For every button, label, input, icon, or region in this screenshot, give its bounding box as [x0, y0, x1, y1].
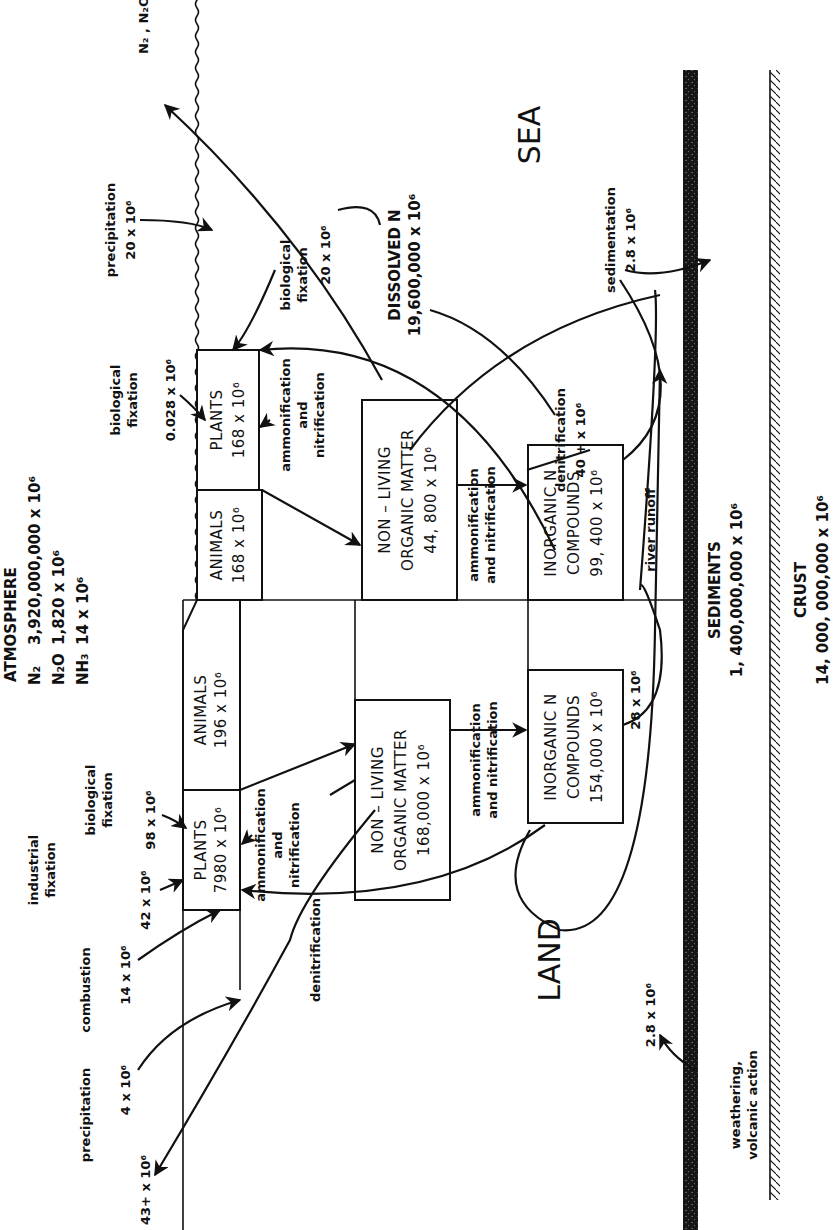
- sea-bio2-value: 0.028 x 10⁶: [163, 359, 178, 442]
- river-value: 28 x 10⁶: [628, 670, 643, 730]
- n2-n2o-label: N₂ , N₂O: [136, 0, 151, 54]
- svg-text:ORGANIC MATTER: ORGANIC MATTER: [399, 429, 417, 571]
- combustion-value: 14 x 10⁶: [118, 945, 133, 1005]
- svg-text:154,000 x 10⁶: 154,000 x 10⁶: [588, 691, 606, 803]
- svg-text:ANIMALS: ANIMALS: [208, 510, 226, 581]
- atm-nh3-label: NH₃: [74, 653, 92, 685]
- land-animals-box: ANIMALS 196 x 10⁶: [183, 600, 240, 790]
- land-amm1-l2: and: [270, 831, 285, 858]
- sed-value: 2.8 x 10⁶: [623, 208, 638, 273]
- land-amm1-l1: ammonification: [253, 788, 268, 901]
- weathering-value: 2.8 x 10⁶: [643, 983, 658, 1048]
- sea-animals-box: ANIMALS 168 x 10⁶: [197, 490, 262, 600]
- atm-nh3-value: 14 x 10⁶: [74, 577, 92, 645]
- svg-text:196 x 10⁶: 196 x 10⁶: [212, 672, 230, 749]
- land-precip-arrow: [138, 1000, 240, 1070]
- sea-bio2-label-1: biological: [108, 365, 123, 436]
- svg-text:7980 x 10⁶: 7980 x 10⁶: [212, 807, 230, 894]
- land-inorganic-box: INORGANIC N COMPOUNDS 154,000 x 10⁶: [528, 670, 623, 823]
- nitrogen-cycle-diagram: ATMOSPHERE N₂ 3,920,000,000 x 10⁶ N₂O 1,…: [0, 0, 836, 1230]
- sea-bio-value: 20 x 10⁶: [318, 225, 333, 285]
- sea-bio2-label-2: fixation: [125, 372, 140, 428]
- sea-amm1-l3: nitrification: [312, 372, 327, 458]
- land-bio-label-1: biological: [83, 765, 98, 836]
- land-bio-label-2: fixation: [100, 772, 115, 828]
- industrial-value: 42 x 10⁶: [138, 870, 153, 930]
- land-animals-to-nonliving: [240, 744, 355, 790]
- sea-amm1-l1: ammonification: [278, 358, 293, 471]
- sea-bio-tick: [338, 207, 380, 225]
- sea-animals-to-nonliving: [262, 490, 360, 545]
- sea-bio-label-2: fixation: [295, 247, 310, 303]
- sediment-band: [683, 70, 698, 1230]
- atm-n2o-label: N₂O: [50, 653, 68, 685]
- land-bio-value: 98 x 10⁶: [143, 790, 158, 850]
- svg-text:44, 800 x 10⁶: 44, 800 x 10⁶: [422, 446, 440, 553]
- weathering-l2: volcanic action: [745, 1050, 760, 1160]
- dissolved-to-atm-arrow: [165, 105, 382, 380]
- sed-label: sedimentation: [603, 187, 618, 293]
- land-amm2-l1: ammonification: [468, 703, 483, 816]
- sea-precip-value: 20 x 10⁶: [123, 200, 138, 260]
- sea-precip-arrow: [140, 220, 212, 230]
- svg-text:ORGANIC MATTER: ORGANIC MATTER: [392, 729, 410, 871]
- land-plants-box: PLANTS 7980 x 10⁶: [183, 790, 240, 910]
- sediments-value: 1, 400,000,000 x 10⁶: [728, 503, 746, 677]
- atm-n2-value: 3,920,000,000 x 10⁶: [26, 476, 44, 645]
- land-nonliving-box: NON – LIVING ORGANIC MATTER 168,000 x 10…: [355, 700, 450, 900]
- svg-text:99, 400 x 10⁶: 99, 400 x 10⁶: [588, 469, 606, 576]
- dissolved-n-label: DISSOLVED N 19,600,000 x 10⁶: [386, 194, 424, 336]
- crust-title: CRUST: [792, 561, 810, 618]
- sea-plants-box: PLANTS 168 x 10⁶: [197, 350, 259, 490]
- sea-bio-label-1: biological: [278, 240, 293, 311]
- land-denit-value: 43+ x 10⁶: [138, 1155, 153, 1226]
- sediments-title: SEDIMENTS: [706, 541, 724, 639]
- atm-n2o-value: 1,820 x 10⁶: [50, 550, 68, 645]
- river-runoff-label: river runoff: [643, 488, 658, 572]
- svg-text:168 x 10⁶: 168 x 10⁶: [230, 382, 248, 459]
- crust-value: 14, 000, 000,000 x 10⁶: [814, 495, 832, 685]
- svg-text:168 x 10⁶: 168 x 10⁶: [230, 507, 248, 584]
- svg-text:NON – LIVING: NON – LIVING: [369, 746, 387, 854]
- land-amm1-l3: nitrification: [287, 802, 302, 888]
- land-amm2-l2: and nitrification: [485, 701, 500, 819]
- sea-nonliving-box: NON – LIVING ORGANIC MATTER 44, 800 x 10…: [362, 400, 457, 600]
- crust-hatching: [770, 70, 780, 1200]
- atm-n2-label: N₂: [26, 666, 44, 685]
- svg-text:ANIMALS: ANIMALS: [192, 675, 210, 746]
- svg-text:DISSOLVED N: DISSOLVED N: [386, 209, 404, 320]
- sea-amm2-l2: and nitrification: [483, 466, 498, 584]
- land-precip-label: precipitation: [78, 1068, 93, 1162]
- svg-text:INORGANIC N: INORGANIC N: [542, 693, 560, 800]
- land-precip-value: 4 x 10⁶: [118, 1065, 133, 1116]
- sea-denit-label: denitrification: [553, 388, 568, 492]
- svg-text:19,600,000 x 10⁶: 19,600,000 x 10⁶: [406, 194, 424, 336]
- svg-text:PLANTS: PLANTS: [192, 820, 210, 881]
- land-amm1-tick: [330, 780, 355, 795]
- land-denit-label: denitrification: [308, 898, 323, 1002]
- sea-precip-label: precipitation: [103, 183, 118, 277]
- svg-text:COMPOUNDS: COMPOUNDS: [565, 695, 583, 799]
- sea-bio-arrow: [233, 270, 275, 350]
- sea-amm1-arrow: [260, 420, 270, 427]
- svg-text:NON – LIVING: NON – LIVING: [376, 446, 394, 554]
- atmosphere-title: ATMOSPHERE: [2, 567, 20, 682]
- industrial-arrow: [160, 880, 183, 890]
- land-amm1-arrow: [242, 835, 252, 844]
- svg-text:PLANTS: PLANTS: [208, 390, 226, 451]
- sea-label: SEA: [512, 105, 547, 164]
- sea-denit-value: 40 + x 10⁶: [573, 402, 588, 477]
- industrial-label-1: industrial: [26, 835, 41, 905]
- industrial-label-2: fixation: [43, 842, 58, 898]
- combustion-label: combustion: [78, 947, 93, 1032]
- sea-amm1-l2: and: [295, 401, 310, 428]
- weathering-l1: weathering,: [728, 1061, 743, 1149]
- svg-text:168,000 x 10⁶: 168,000 x 10⁶: [415, 744, 433, 856]
